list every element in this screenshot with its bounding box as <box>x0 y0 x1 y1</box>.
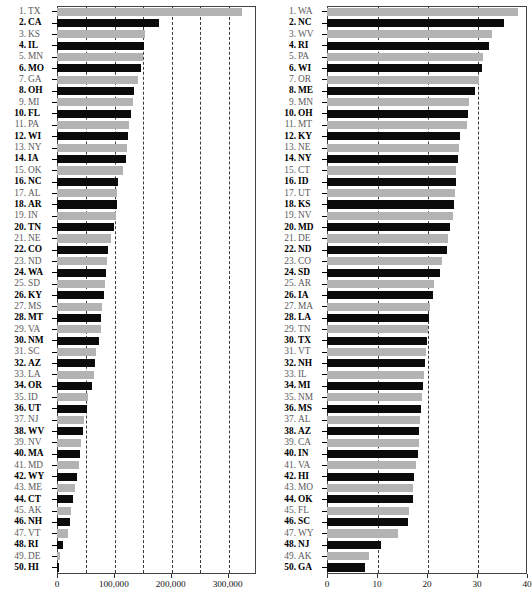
row-rank: 20. <box>0 222 29 233</box>
bar <box>327 439 419 447</box>
bar-track <box>327 380 527 391</box>
chart-row: 46.SC <box>266 516 532 527</box>
chart-row: 13.NY <box>0 142 266 153</box>
row-state-abbr: MI <box>298 380 322 391</box>
bar <box>57 76 138 84</box>
x-axis-tick-label: 100,000 <box>99 579 129 589</box>
row-rank: 41. <box>270 460 299 471</box>
row-state-abbr: WA <box>28 267 52 278</box>
row-rank: 10. <box>270 108 299 119</box>
bar <box>57 132 128 140</box>
bar-track <box>327 335 527 346</box>
bar <box>57 541 63 549</box>
row-state-abbr: MO <box>28 63 52 74</box>
bar-track <box>57 63 256 74</box>
chart-row: 40.IN <box>266 448 532 459</box>
bar <box>57 303 102 311</box>
chart-row: 34.MI <box>266 380 532 391</box>
row-state-abbr: TX <box>28 6 52 17</box>
row-state-abbr: IL <box>28 40 52 51</box>
chart-row: 43.MO <box>266 482 532 493</box>
bar-track <box>57 437 256 448</box>
row-rank: 1. <box>0 6 29 17</box>
chart-row: 33.LA <box>0 369 266 380</box>
row-rank: 17. <box>270 188 299 199</box>
bar <box>327 8 518 16</box>
row-rank: 49. <box>270 551 299 562</box>
chart-row: 17.AL <box>0 188 266 199</box>
chart-row: 30.TX <box>266 335 532 346</box>
bar <box>57 121 129 129</box>
bar <box>327 325 428 333</box>
row-rank: 8. <box>270 85 299 96</box>
row-rank: 28. <box>270 312 299 323</box>
bar <box>327 371 424 379</box>
bar <box>327 382 423 390</box>
row-rank: 16. <box>270 176 299 187</box>
row-rank: 11. <box>270 119 299 130</box>
x-axis-tick <box>228 574 229 578</box>
bar <box>57 87 134 95</box>
row-rank: 22. <box>270 244 299 255</box>
bar <box>57 223 114 231</box>
row-state-abbr: ID <box>298 176 322 187</box>
bar <box>327 359 425 367</box>
bar <box>57 416 84 424</box>
bar <box>57 212 116 220</box>
bar-track <box>57 142 256 153</box>
bar <box>327 529 398 537</box>
chart-row: 38.WV <box>0 426 266 437</box>
bar-track <box>327 324 527 335</box>
bar <box>57 246 108 254</box>
row-state-abbr: ND <box>28 256 52 267</box>
row-rank: 14. <box>0 153 29 164</box>
row-state-abbr: NJ <box>28 414 52 425</box>
bar <box>57 371 94 379</box>
bar <box>327 269 440 277</box>
chart-row: 6.MO <box>0 63 266 74</box>
bar-track <box>57 358 256 369</box>
row-rank: 2. <box>0 17 29 28</box>
bar-track <box>327 437 527 448</box>
row-rank: 4. <box>0 40 29 51</box>
row-state-abbr: MT <box>28 312 52 323</box>
row-rank: 31. <box>270 346 299 357</box>
chart-row: 21.NE <box>0 233 266 244</box>
chart-row: 38.AZ <box>266 426 532 437</box>
row-state-abbr: SD <box>28 278 52 289</box>
bar-track <box>327 176 527 187</box>
bar-track <box>327 346 527 357</box>
row-rank: 27. <box>270 301 299 312</box>
chart-row: 44.CT <box>0 494 266 505</box>
row-state-abbr: WI <box>298 63 322 74</box>
bar <box>327 155 458 163</box>
row-state-abbr: PA <box>298 51 322 62</box>
bar-track <box>57 51 256 62</box>
bar-track <box>327 29 527 40</box>
chart-row: 8.ME <box>266 85 532 96</box>
chart-row: 4.RI <box>266 40 532 51</box>
bar <box>327 416 420 424</box>
chart-row: 37.AL <box>266 414 532 425</box>
row-state-abbr: CA <box>28 17 52 28</box>
row-state-abbr: NC <box>28 176 52 187</box>
row-rank: 18. <box>270 199 299 210</box>
row-rank: 33. <box>0 369 29 380</box>
chart-row: 22.ND <box>266 244 532 255</box>
row-rank: 5. <box>0 51 29 62</box>
row-rank: 25. <box>0 278 29 289</box>
bar-track <box>327 528 527 539</box>
bar <box>327 405 421 413</box>
bar-track <box>57 471 256 482</box>
row-rank: 17. <box>0 188 29 199</box>
bar-track <box>57 403 256 414</box>
chart-row: 7.OR <box>266 74 532 85</box>
chart-row: 28.MT <box>0 312 266 323</box>
row-state-abbr: HI <box>298 471 322 482</box>
chart-row: 39.NV <box>0 437 266 448</box>
bar <box>57 405 87 413</box>
bar-track <box>327 403 527 414</box>
chart-row: 13.NE <box>266 142 532 153</box>
bar <box>327 98 469 106</box>
bar <box>57 450 80 458</box>
